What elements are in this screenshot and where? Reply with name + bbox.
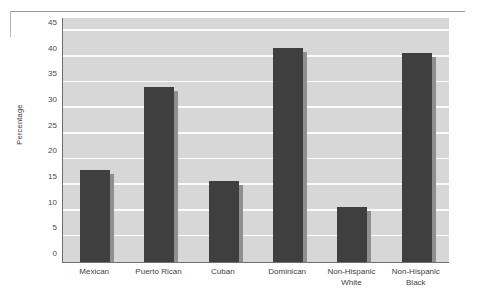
bar-slot [385, 18, 449, 262]
y-tick-label: 45 [48, 17, 57, 26]
bar-series [63, 18, 449, 262]
y-tick-label: 10 [48, 197, 57, 206]
x-tick-label: Non-Hispanic Black [384, 266, 448, 288]
y-tick-label: 0 [53, 249, 57, 258]
x-tick-label: Cuban [191, 266, 255, 288]
x-tick-label: Dominican [255, 266, 319, 288]
y-tick-label: 20 [48, 146, 57, 155]
bar-slot [320, 18, 384, 262]
bar-shadow [367, 211, 371, 262]
x-tick-label: Puerto Rican [126, 266, 190, 288]
bar [209, 181, 239, 262]
bar-slot [256, 18, 320, 262]
bar-shadow [174, 91, 178, 262]
y-tick-label: 25 [48, 120, 57, 129]
bar [337, 207, 367, 262]
bar-chart-figure: Percentage 051015202530354045 MexicanPue… [0, 0, 477, 307]
y-tick-label: 30 [48, 94, 57, 103]
bar-slot [192, 18, 256, 262]
y-axis-title: Percentage [15, 85, 24, 165]
bar [273, 48, 303, 262]
y-tick-label: 15 [48, 171, 57, 180]
x-tick-label: Mexican [62, 266, 126, 288]
bar [80, 170, 110, 262]
plot-area: 051015202530354045 [62, 18, 449, 263]
x-tick-label: Non-Hispanic White [319, 266, 383, 288]
bar-shadow [110, 174, 114, 262]
y-tick-label: 35 [48, 69, 57, 78]
x-axis-labels: MexicanPuerto RicanCubanDominicanNon-His… [62, 266, 448, 288]
bar [144, 87, 174, 262]
bar-shadow [303, 52, 307, 262]
bar-slot [63, 18, 127, 262]
y-tick-label: 40 [48, 43, 57, 52]
y-tick-label: 5 [53, 223, 57, 232]
bar-slot [127, 18, 191, 262]
bar-shadow [239, 185, 243, 262]
bar [402, 53, 432, 262]
bar-shadow [432, 57, 436, 262]
